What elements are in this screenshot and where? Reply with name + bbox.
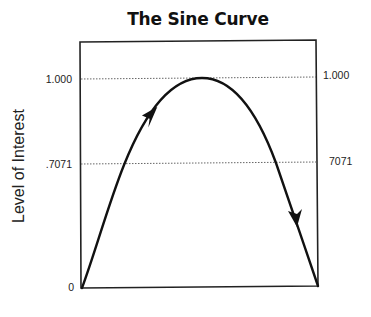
arrow-down-icon — [288, 209, 302, 227]
plot-area — [0, 0, 371, 317]
reference-line-07071 — [81, 162, 317, 164]
sine-curve — [82, 78, 318, 288]
